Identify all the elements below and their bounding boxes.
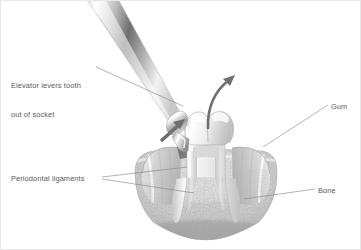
label-elevator: Elevator levers tooth out of socket [11, 62, 81, 139]
label-periodontal-ligaments: Periodontal ligaments [11, 174, 85, 184]
leader-gum [263, 105, 328, 147]
label-gum: Gum [331, 102, 347, 112]
pulp-chamber [193, 145, 219, 159]
label-elevator-line2: out of socket [11, 110, 81, 120]
label-elevator-line1: Elevator levers tooth [11, 81, 81, 91]
illustration-figure: Elevator levers tooth out of socket Peri… [0, 0, 361, 250]
label-bone: Bone [318, 186, 336, 196]
